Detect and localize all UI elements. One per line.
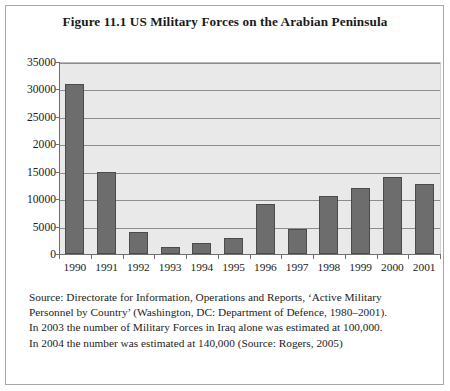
figure-page: Figure 11.1 US Military Forces on the Ar… (0, 0, 450, 391)
bar (161, 247, 180, 254)
y-axis-tick-label: 5000 (16, 220, 56, 233)
gridline (59, 90, 440, 91)
y-axis-tick-label: 35000 (16, 56, 56, 69)
bar (256, 204, 275, 254)
x-axis-tick-label: 1995 (222, 261, 245, 273)
x-axis-tick (91, 254, 92, 259)
page-title: Figure 11.1 US Military Forces on the Ar… (0, 14, 450, 30)
x-axis-tick-label: 1998 (317, 261, 340, 273)
y-axis-labels: 0500010000150002000250003000035000 (16, 62, 56, 254)
x-axis-tick (313, 254, 314, 259)
bar (383, 177, 402, 254)
bar (224, 238, 243, 254)
x-axis-tick-label: 2000 (381, 261, 404, 273)
gridline (59, 173, 440, 174)
y-axis-tick-label: 2000 (16, 138, 56, 151)
source-note-line: In 2004 the number was estimated at 140,… (29, 336, 429, 351)
bar-chart: 0500010000150002000250003000035000 19901… (16, 55, 432, 270)
x-axis-tick-label: 1996 (254, 261, 277, 273)
x-axis-tick-label: 1992 (127, 261, 150, 273)
gridline (59, 118, 440, 119)
x-axis-tick (408, 254, 409, 259)
x-axis-tick-label: 1991 (95, 261, 118, 273)
x-axis-tick (186, 254, 187, 259)
y-axis-tick-label: 15000 (16, 165, 56, 178)
x-axis-tick-label: 1999 (349, 261, 372, 273)
gridline (59, 145, 440, 146)
bar (351, 188, 370, 254)
figure-source-note: Source: Directorate for Information, Ope… (29, 290, 429, 351)
bar (129, 232, 148, 254)
source-note-line: In 2003 the number of Military Forces in… (29, 320, 429, 335)
x-axis-tick-label: 1990 (63, 261, 86, 273)
x-axis-tick (345, 254, 346, 259)
source-note-line: Personnel by Country’ (Washington, DC: D… (29, 305, 429, 320)
x-axis-tick (59, 254, 60, 259)
gridline (59, 63, 440, 64)
bar (288, 229, 307, 254)
y-axis-tick-label: 10000 (16, 193, 56, 206)
bar (415, 184, 434, 254)
bar (97, 172, 116, 254)
x-axis-tick (250, 254, 251, 259)
x-axis-tick (440, 254, 441, 259)
x-axis-tick (218, 254, 219, 259)
x-axis-tick (281, 254, 282, 259)
x-axis-tick-label: 2001 (413, 261, 436, 273)
x-axis-tick-label: 1993 (159, 261, 182, 273)
x-axis-tick-label: 1997 (286, 261, 309, 273)
y-axis-tick-label: 30000 (16, 83, 56, 96)
bar (65, 84, 84, 254)
y-axis-line (59, 62, 60, 255)
bar (319, 196, 338, 254)
source-note-line: Source: Directorate for Information, Ope… (29, 290, 429, 305)
x-axis-tick (123, 254, 124, 259)
y-axis-tick-label: 25000 (16, 110, 56, 123)
x-axis-tick (154, 254, 155, 259)
x-axis-tick-label: 1994 (190, 261, 213, 273)
x-axis-tick (377, 254, 378, 259)
bar (192, 243, 211, 254)
y-axis-tick-label: 0 (16, 248, 56, 261)
